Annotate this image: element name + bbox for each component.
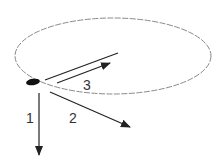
moving-object (26, 78, 41, 86)
arrow-label-2: 2 (69, 110, 77, 126)
orbit-ellipse (15, 18, 211, 94)
arrow-label-1: 1 (26, 110, 34, 126)
tangent-line (45, 53, 118, 80)
arrow-2-icon (50, 92, 130, 127)
arrow-label-3: 3 (83, 77, 91, 93)
diagram-canvas: 123 (0, 0, 223, 167)
